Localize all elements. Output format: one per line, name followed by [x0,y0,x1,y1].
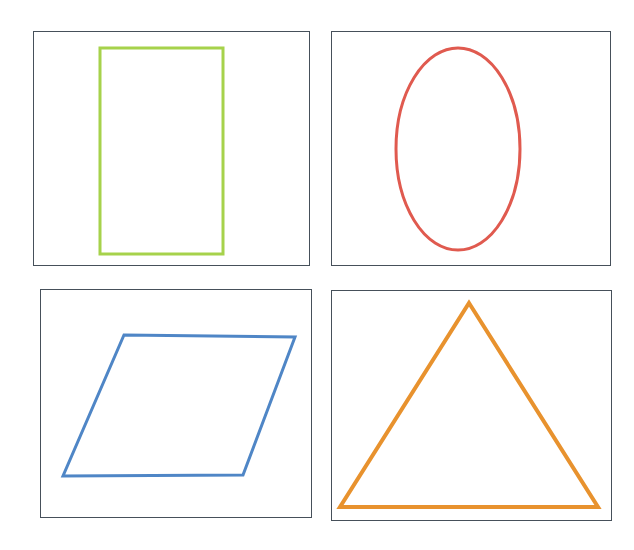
triangle-shape [331,290,612,521]
panel-ellipse [331,31,611,266]
parallelogram-outline [63,335,295,476]
panel-parallelogram [40,289,312,518]
panel-triangle [331,290,612,521]
rectangle-shape [33,31,310,266]
ellipse-shape [331,31,611,266]
rectangle-outline [100,48,223,254]
panel-rectangle [33,31,310,266]
figure-root [0,0,634,550]
ellipse-outline [396,48,520,250]
parallelogram-shape [40,289,312,518]
triangle-outline [340,303,598,507]
